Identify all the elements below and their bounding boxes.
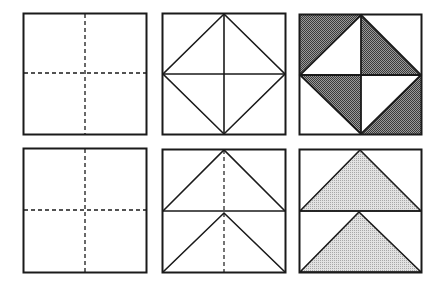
diagram-canvas (0, 0, 442, 286)
panel-row1-step1 (24, 14, 147, 135)
diagram-stage (0, 0, 442, 286)
panel-row2-step2 (163, 150, 286, 273)
panel-row2-step1 (24, 149, 147, 273)
panel-row2-step3 (300, 150, 422, 273)
panel-row1-step2 (163, 14, 286, 135)
panel-row1-step3 (300, 15, 422, 135)
